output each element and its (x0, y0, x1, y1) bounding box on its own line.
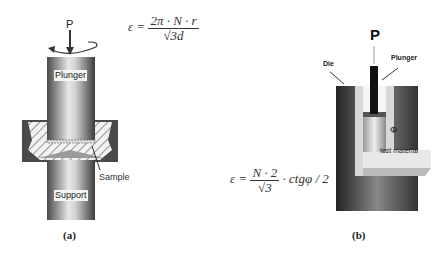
equation-a-numerator: 2π · N · r (148, 14, 198, 29)
die-label: Die (323, 60, 334, 67)
force-label-a: P (66, 18, 73, 30)
plunger-pointer (382, 68, 398, 80)
ecap-diagram-graphic (330, 0, 448, 258)
die-pointer (330, 70, 344, 84)
equation-b: ε = N · 2 √3 · ctgφ / 2 (230, 166, 329, 195)
equation-b-suffix: · ctgφ / 2 (283, 171, 329, 186)
caption-b: (b) (352, 229, 365, 241)
equation-a-lhs: ε = (128, 19, 145, 34)
plunger-rod (370, 66, 378, 114)
caption-a: (a) (63, 229, 76, 241)
equation-b-numerator: N · 2 (250, 166, 279, 181)
test-material-label: test material (380, 147, 418, 154)
equation-a: ε = 2π · N · r √3d (128, 14, 199, 43)
sample-label: Sample (99, 172, 130, 182)
plunger-label-a: Plunger (54, 70, 87, 81)
rotation-arrow-icon (52, 42, 97, 53)
equation-b-lhs: ε = (230, 171, 247, 186)
plunger-label-b: Plunger (391, 54, 417, 61)
equation-b-denominator: √3 (256, 181, 274, 195)
force-label-b: P (370, 26, 380, 43)
angle-label: Φ (390, 125, 397, 135)
equation-a-denominator: √3d (161, 29, 185, 43)
support-label: Support (54, 190, 88, 201)
